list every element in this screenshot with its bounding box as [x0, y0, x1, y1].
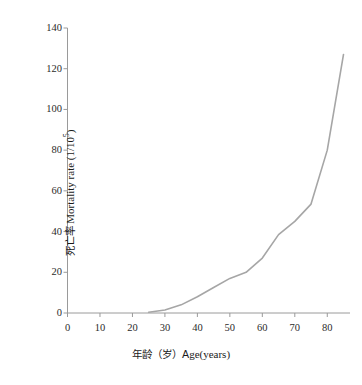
y-tick-label: 0: [28, 308, 62, 319]
x-tick-label: 40: [192, 323, 203, 334]
y-tick-label: 100: [28, 104, 62, 115]
y-axis-title-text: Mortality rate (1/10: [64, 136, 76, 226]
x-tick-label: 50: [225, 323, 236, 334]
y-tick-label: 40: [28, 226, 62, 237]
x-tick-label: 80: [322, 323, 333, 334]
y-axis-title: 死亡率 Mortality rate (1/105): [62, 129, 77, 256]
y-tick-label: 60: [28, 186, 62, 197]
y-axis-title-suffix: ): [64, 129, 76, 133]
y-tick-label: 80: [28, 145, 62, 156]
x-tick-label: 60: [257, 323, 268, 334]
y-tick-label: 140: [28, 23, 62, 34]
x-axis-title-text: ge(years): [189, 348, 230, 360]
x-tick-label: 0: [65, 323, 70, 334]
y-tick-label: 120: [28, 63, 62, 74]
mortality-rate-line-chart: 020406080100120140 01020304050607080 死亡率…: [0, 0, 362, 385]
x-tick-label: 20: [127, 323, 138, 334]
y-axis-title-cjk: 死亡率: [64, 226, 76, 256]
x-axis-ticks: [68, 313, 328, 317]
x-axis-title: 年龄（岁）Age(years): [0, 346, 362, 361]
x-tick-label: 30: [160, 323, 171, 334]
x-tick-label: 10: [95, 323, 106, 334]
x-tick-label: 70: [290, 323, 301, 334]
mortality-rate-series-line: [149, 54, 344, 312]
x-axis-title-cjk: 年龄（岁）A: [132, 348, 189, 360]
y-tick-label: 20: [28, 267, 62, 278]
